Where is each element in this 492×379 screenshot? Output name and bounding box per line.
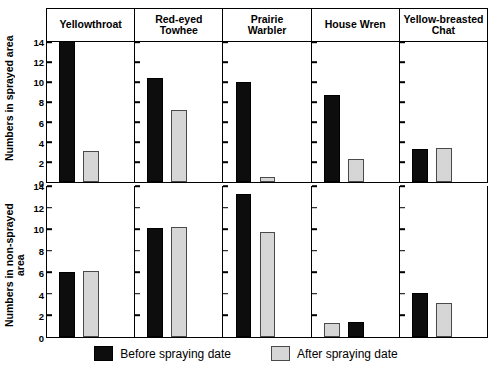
panel-house-wren [311, 186, 399, 338]
y-tick-label: 14 [22, 181, 44, 192]
bar-before-spraying [236, 82, 252, 182]
bar-before-spraying [236, 194, 252, 337]
y-tick-label: 12 [22, 57, 44, 68]
y-tick-label: 10 [22, 224, 44, 235]
bar-slot [260, 42, 276, 182]
bar-slot [59, 42, 75, 182]
y-tick-label: 2 [22, 311, 44, 322]
panel-prairie-warbler: Prairie Warbler [222, 8, 310, 183]
y-tick-label: 14 [22, 37, 44, 48]
bar-group [47, 42, 134, 182]
bar-slot [236, 186, 252, 337]
bar-slot [59, 186, 75, 337]
bar-group [135, 186, 222, 337]
panel-title: House Wren [312, 8, 399, 42]
bar-group [223, 186, 310, 337]
panel-group-non-sprayed [46, 186, 488, 338]
bar-slot [348, 42, 364, 182]
bar-before-spraying [147, 78, 163, 182]
y-tick-label: 6 [22, 117, 44, 128]
bar-after-spraying [324, 323, 340, 337]
panel-row-sprayed: 02468101214 YellowthroatRed-eyed TowheeP… [46, 8, 488, 183]
y-tick-labels-bottom: 02468101214 [22, 186, 44, 338]
legend-label-before: Before spraying date [120, 347, 231, 361]
panel-title: Red-eyed Towhee [135, 8, 222, 42]
panel-title: Yellow-breasted Chat [400, 8, 487, 42]
plot-area [223, 186, 310, 338]
panel-yellowthroat: Yellowthroat [46, 8, 134, 183]
y-axis-title-top: Numbers in sprayed area [4, 18, 15, 178]
panel-title: Prairie Warbler [223, 8, 310, 42]
bar-after-spraying [171, 110, 187, 182]
bar-after-spraying [83, 271, 99, 337]
legend-label-after: After spraying date [297, 347, 398, 361]
bar-group [135, 42, 222, 182]
plot-area [400, 186, 487, 338]
bar-before-spraying [412, 149, 428, 182]
plot-area [312, 186, 399, 338]
y-tick-label: 4 [22, 137, 44, 148]
legend-swatch-before-icon [94, 346, 113, 361]
legend-item-after: After spraying date [271, 346, 398, 361]
bar-group [400, 186, 487, 337]
bar-slot [436, 42, 452, 182]
y-tick-labels-top: 02468101214 [22, 8, 44, 183]
panel-group-sprayed: YellowthroatRed-eyed TowheePrairie Warbl… [46, 8, 488, 183]
bar-slot [83, 42, 99, 182]
bar-slot [83, 186, 99, 337]
bar-slot [436, 186, 452, 337]
legend-item-before: Before spraying date [94, 346, 231, 361]
bar-slot [324, 42, 340, 182]
bar-after-spraying [348, 159, 364, 182]
panel-yellow-breasted-chat: Yellow-breasted Chat [399, 8, 488, 183]
panel-yellowthroat [46, 186, 134, 338]
bar-before-spraying [59, 41, 75, 182]
bar-slot [348, 186, 364, 337]
panel-title: Yellowthroat [47, 8, 134, 42]
y-tick-label: 2 [22, 157, 44, 168]
y-tick-label: 10 [22, 77, 44, 88]
bar-slot [147, 42, 163, 182]
y-tick-label: 8 [22, 246, 44, 257]
bar-group [400, 42, 487, 182]
plot-area [223, 42, 310, 183]
plot-area [47, 42, 134, 183]
panel-row-non-sprayed: 02468101214 [46, 186, 488, 338]
bar-after-spraying [260, 232, 276, 337]
bar-slot [171, 186, 187, 337]
bar-before-spraying [348, 322, 364, 337]
bar-after-spraying [171, 227, 187, 337]
plot-area [135, 42, 222, 183]
bar-group [312, 42, 399, 182]
y-tick-label: 6 [22, 267, 44, 278]
bar-after-spraying [436, 303, 452, 338]
figure-root: Numbers in sprayed area Numbers in non-s… [0, 0, 492, 379]
bar-before-spraying [147, 228, 163, 337]
panel-red-eyed-towhee [134, 186, 222, 338]
bar-slot [412, 186, 428, 337]
bar-group [223, 42, 310, 182]
y-tick-label: 4 [22, 289, 44, 300]
bar-before-spraying [412, 293, 428, 337]
chart-legend: Before spraying date After spraying date [0, 346, 492, 361]
bar-group [312, 186, 399, 337]
bar-before-spraying [59, 272, 75, 337]
y-tick-label: 8 [22, 97, 44, 108]
legend-swatch-after-icon [271, 346, 290, 361]
bar-slot [324, 186, 340, 337]
plot-area [47, 186, 134, 338]
plot-area [312, 42, 399, 183]
panel-yellow-breasted-chat [399, 186, 488, 338]
bar-slot [260, 186, 276, 337]
bar-slot [147, 186, 163, 337]
bar-after-spraying [436, 148, 452, 182]
bar-slot [412, 42, 428, 182]
bar-after-spraying [260, 177, 276, 182]
y-tick-label: 0 [22, 333, 44, 344]
y-tick-label: 12 [22, 202, 44, 213]
plot-area [400, 42, 487, 183]
bar-slot [236, 42, 252, 182]
bar-group [47, 186, 134, 337]
bar-after-spraying [83, 151, 99, 182]
panel-house-wren: House Wren [311, 8, 399, 183]
